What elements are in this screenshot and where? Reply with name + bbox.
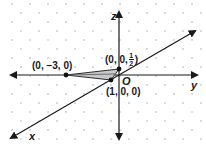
point-label-0-neg3-0: (0, −3, 0) [32,61,72,71]
point-1-0-0 [109,78,114,83]
point-0-neg3-0 [64,73,69,78]
point-label-prefix: (0, 0, [105,55,128,65]
point-label-0-0-half: (0, 0, 1 2 ) [105,52,138,67]
y-axis-label: y [191,80,197,91]
diagram-canvas: z y x O (0, −3, 0) (0, 0, 1 2 ) (1, 0, 0… [0,0,206,148]
axes-diagram [0,0,206,148]
point-0-0-half [117,67,122,72]
fraction-one-half: 1 2 [129,52,134,67]
x-axis-line [11,75,119,138]
x-axis-label: x [29,131,35,142]
point-label-suffix: ) [135,55,138,65]
fraction-denominator: 2 [129,60,133,67]
z-axis-label: z [111,11,117,22]
point-label-1-0-0: (1, 0, 0) [106,87,140,97]
fraction-numerator: 1 [129,52,133,59]
